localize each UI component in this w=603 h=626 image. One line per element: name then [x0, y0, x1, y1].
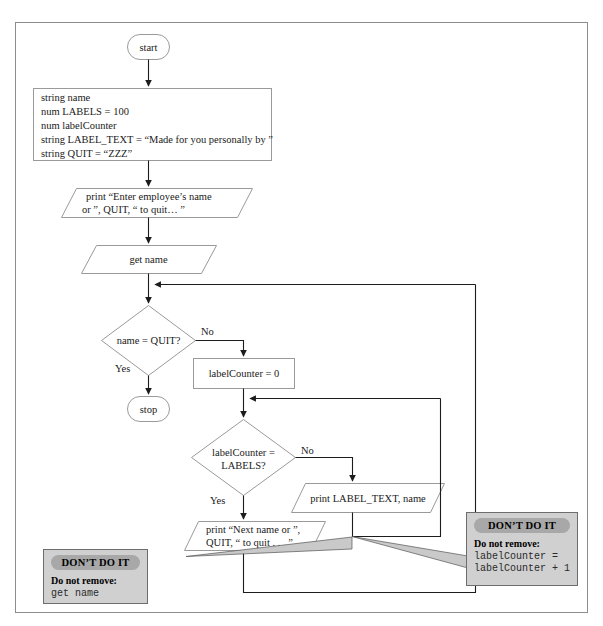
- node-stop-label: stop: [140, 404, 158, 415]
- node-print-label: print LABEL_TEXT, name: [292, 484, 445, 513]
- declarations-line-3: num labelCounter: [41, 120, 117, 131]
- print-label-text: print LABEL_TEXT, name: [310, 493, 426, 504]
- callout-right-pointer: [352, 537, 468, 569]
- node-label-counter-init: labelCounter = 0: [194, 359, 295, 389]
- declarations-line-1: string name: [41, 92, 91, 103]
- node-get-name: get name: [82, 246, 217, 274]
- prompt-print-line-2: or ”, QUIT, “ to quit… ”: [82, 204, 185, 215]
- callout-left-label: Do not remove:: [51, 575, 140, 586]
- callout-left-badge: DON’T DO IT: [51, 555, 140, 570]
- declarations-line-4: string LABEL_TEXT = “Made for you person…: [41, 134, 273, 145]
- node-start: start: [128, 35, 170, 60]
- node-declarations: string name num LABELS = 100 num labelCo…: [34, 89, 274, 161]
- callout-right-code: labelCounter = labelCounter + 1: [474, 551, 570, 575]
- callout-left-code: get name: [51, 588, 140, 600]
- node-start-label: start: [139, 42, 157, 53]
- prompt-print-line-1: print “Enter employee’s name: [86, 191, 212, 202]
- callout-right-badge: DON’T DO IT: [474, 518, 570, 533]
- declarations-line-2: num LABELS = 100: [41, 106, 129, 117]
- callout-right-label: Do not remove:: [474, 538, 570, 549]
- connector-inner-loop-path: [353, 399, 441, 537]
- declarations-line-5: string QUIT = “ZZZ”: [41, 148, 133, 159]
- label-counter-init-label: labelCounter = 0: [209, 368, 280, 379]
- decision-name-quit-label: name = QUIT?: [117, 335, 181, 346]
- decision-name-quit-yes-label: Yes: [115, 363, 130, 374]
- get-name-label: get name: [129, 254, 168, 265]
- node-stop: stop: [128, 397, 170, 422]
- decision-label-counter-no-label: No: [301, 445, 314, 456]
- next-name-line-1: print “Next name or ”,: [206, 524, 300, 535]
- node-prompt-print: print “Enter employee’s name or ”, QUIT,…: [62, 189, 253, 218]
- decision-label-counter-line-1: labelCounter =: [212, 447, 275, 458]
- callout-left: DON’T DO IT Do not remove: get name: [43, 549, 148, 604]
- connector-decision1-no: [196, 341, 244, 357]
- callout-right: DON’T DO IT Do not remove: labelCounter …: [466, 512, 578, 586]
- decision-label-counter-yes-label: Yes: [210, 495, 225, 506]
- flowchart-canvas: start string name num LABELS = 100 num l…: [0, 0, 603, 626]
- connector-decision2-no: [296, 458, 353, 482]
- decision-label-counter-line-2: LABELS?: [221, 460, 266, 471]
- node-decision-label-counter: labelCounter = LABELS?: [192, 420, 296, 496]
- decision-name-quit-no-label: No: [201, 326, 214, 337]
